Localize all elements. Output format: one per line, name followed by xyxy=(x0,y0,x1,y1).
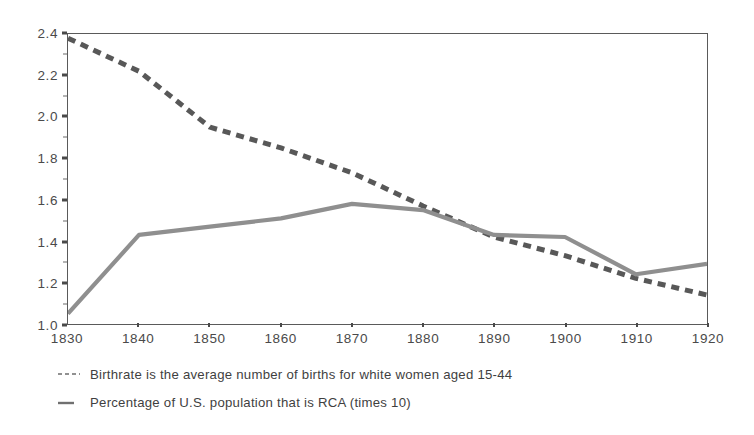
y-tick-label: 1.8 xyxy=(12,151,58,166)
x-tick-label: 1860 xyxy=(251,331,311,346)
x-tick-label: 1850 xyxy=(179,331,239,346)
legend-item-birthrate: Birthrate is the average number of birth… xyxy=(58,360,718,388)
solid-line-swatch xyxy=(58,395,82,409)
chart-legend: Birthrate is the average number of birth… xyxy=(58,360,718,416)
series-line-2 xyxy=(68,204,707,314)
x-tick-label: 1920 xyxy=(678,331,738,346)
x-tick-mark xyxy=(351,323,353,327)
dashed-line-swatch xyxy=(58,367,82,381)
x-tick-label: 1830 xyxy=(37,331,97,346)
x-tick-mark xyxy=(493,323,495,327)
x-tick-label: 1870 xyxy=(322,331,382,346)
x-tick-label: 1880 xyxy=(393,331,453,346)
x-tick-mark xyxy=(137,323,139,327)
plot-area xyxy=(67,33,708,325)
x-tick-mark xyxy=(636,323,638,327)
x-tick-mark xyxy=(707,323,709,327)
y-tick-label: 2.2 xyxy=(12,67,58,82)
legend-label-birthrate: Birthrate is the average number of birth… xyxy=(90,367,512,382)
x-tick-mark xyxy=(422,323,424,327)
y-tick-label: 1.6 xyxy=(12,192,58,207)
legend-item-rca-percentage: Percentage of U.S. population that is RC… xyxy=(58,388,718,416)
x-tick-label: 1840 xyxy=(108,331,168,346)
y-tick-label: 2.4 xyxy=(12,26,58,41)
x-tick-label: 1900 xyxy=(536,331,596,346)
x-tick-label: 1910 xyxy=(607,331,667,346)
x-tick-mark xyxy=(208,323,210,327)
x-tick-mark xyxy=(280,323,282,327)
x-tick-mark xyxy=(565,323,567,327)
chart-plot-svg xyxy=(68,34,707,324)
x-tick-label: 1890 xyxy=(464,331,524,346)
y-tick-label: 1.2 xyxy=(12,276,58,291)
y-tick-label: 2.0 xyxy=(12,109,58,124)
legend-label-rca-percentage: Percentage of U.S. population that is RC… xyxy=(90,395,411,410)
series-line-1 xyxy=(68,38,707,295)
y-tick-label: 1.4 xyxy=(12,234,58,249)
chart-figure: 1.01.21.41.61.82.02.22.4 183018401850186… xyxy=(0,0,754,435)
